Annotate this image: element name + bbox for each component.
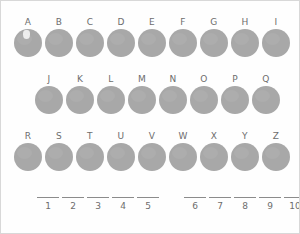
answer-blank-line[interactable] bbox=[259, 197, 281, 198]
alphabet-cell-label: D bbox=[117, 17, 124, 27]
alphabet-dot-icon[interactable] bbox=[76, 143, 104, 171]
alphabet-cell-label: R bbox=[25, 131, 32, 141]
alphabet-cell-f[interactable]: F bbox=[169, 17, 197, 57]
alphabet-cell-e[interactable]: E bbox=[138, 17, 166, 57]
answer-blank-line[interactable] bbox=[112, 197, 134, 198]
alphabet-cell-t[interactable]: T bbox=[76, 131, 104, 171]
answer-blank-line[interactable] bbox=[284, 197, 300, 198]
answer-blanks: 1 2 3 4 5 6 bbox=[1, 197, 300, 212]
answer-blank-line[interactable] bbox=[184, 197, 206, 198]
alphabet-cell-label: V bbox=[149, 131, 155, 141]
alphabet-cell-s[interactable]: S bbox=[45, 131, 73, 171]
alphabet-dot-icon[interactable] bbox=[221, 86, 249, 114]
alphabet-dot-icon[interactable] bbox=[107, 29, 135, 57]
alphabet-dot-icon[interactable] bbox=[200, 143, 228, 171]
alphabet-dot-icon[interactable] bbox=[231, 143, 259, 171]
answer-blank-number: 5 bbox=[145, 201, 151, 212]
alphabet-cell-label: N bbox=[169, 74, 176, 84]
answer-blank-9[interactable]: 9 bbox=[259, 197, 281, 212]
answer-blank-7[interactable]: 7 bbox=[209, 197, 231, 212]
alphabet-cell-label: A bbox=[25, 17, 31, 27]
alphabet-cell-label: Y bbox=[242, 131, 248, 141]
alphabet-dot-icon[interactable] bbox=[128, 86, 156, 114]
alphabet-cell-label: K bbox=[77, 74, 83, 84]
alphabet-cell-l[interactable]: L bbox=[97, 74, 125, 114]
alphabet-cell-j[interactable]: J bbox=[35, 74, 63, 114]
alphabet-dot-icon[interactable] bbox=[262, 143, 290, 171]
alphabet-cell-w[interactable]: W bbox=[169, 131, 197, 171]
alphabet-cell-label: B bbox=[56, 17, 62, 27]
answer-blank-number: 2 bbox=[70, 201, 76, 212]
alphabet-dot-icon[interactable] bbox=[190, 86, 218, 114]
alphabet-dot-icon[interactable] bbox=[200, 29, 228, 57]
answer-blank-number: 3 bbox=[95, 201, 101, 212]
answer-blank-1[interactable]: 1 bbox=[37, 197, 59, 212]
alphabet-cell-m[interactable]: M bbox=[128, 74, 156, 114]
alphabet-cell-label: H bbox=[241, 17, 248, 27]
alphabet-cell-label: J bbox=[48, 74, 51, 84]
alphabet-dot-icon[interactable] bbox=[169, 143, 197, 171]
answer-blank-4[interactable]: 4 bbox=[112, 197, 134, 212]
alphabet-cell-y[interactable]: Y bbox=[231, 131, 259, 171]
alphabet-dot-icon[interactable] bbox=[169, 29, 197, 57]
answer-blank-5[interactable]: 5 bbox=[137, 197, 159, 212]
answer-blank-3[interactable]: 3 bbox=[87, 197, 109, 212]
alphabet-dot-icon[interactable] bbox=[107, 143, 135, 171]
alphabet-cell-z[interactable]: Z bbox=[262, 131, 290, 171]
alphabet-dot-icon[interactable] bbox=[66, 86, 94, 114]
alphabet-cell-label: Z bbox=[273, 131, 279, 141]
answer-blank-6[interactable]: 6 bbox=[184, 197, 206, 212]
alphabet-dot-icon[interactable] bbox=[159, 86, 187, 114]
alphabet-dot-icon[interactable] bbox=[138, 143, 166, 171]
alphabet-cell-c[interactable]: C bbox=[76, 17, 104, 57]
alphabet-dot-icon[interactable] bbox=[138, 29, 166, 57]
alphabet-cell-u[interactable]: U bbox=[107, 131, 135, 171]
alphabet-cell-q[interactable]: Q bbox=[252, 74, 280, 114]
answer-blank-2[interactable]: 2 bbox=[62, 197, 84, 212]
alphabet-cell-n[interactable]: N bbox=[159, 74, 187, 114]
alphabet-cell-label: F bbox=[180, 17, 185, 27]
alphabet-cell-label: L bbox=[108, 74, 113, 84]
answer-blank-10[interactable]: 10 bbox=[284, 197, 300, 212]
alphabet-dot-icon[interactable] bbox=[14, 143, 42, 171]
alphabet-cell-label: E bbox=[149, 17, 155, 27]
answer-group-2: 6 7 8 9 10 bbox=[184, 197, 300, 212]
alphabet-cell-label: G bbox=[210, 17, 217, 27]
alphabet-row-3: R S T U V W X bbox=[1, 119, 300, 171]
alphabet-cell-i[interactable]: I bbox=[262, 17, 290, 57]
alphabet-dot-icon[interactable] bbox=[35, 86, 63, 114]
alphabet-cell-x[interactable]: X bbox=[200, 131, 228, 171]
alphabet-cell-o[interactable]: O bbox=[190, 74, 218, 114]
alphabet-cell-label: C bbox=[87, 17, 94, 27]
alphabet-cell-k[interactable]: K bbox=[66, 74, 94, 114]
alphabet-dot-icon[interactable] bbox=[231, 29, 259, 57]
answer-blank-line[interactable] bbox=[62, 197, 84, 198]
answer-blank-line[interactable] bbox=[37, 197, 59, 198]
answer-blank-line[interactable] bbox=[87, 197, 109, 198]
answer-blank-line[interactable] bbox=[234, 197, 256, 198]
alphabet-cell-b[interactable]: B bbox=[45, 17, 73, 57]
alphabet-dot-icon[interactable] bbox=[45, 29, 73, 57]
answer-blank-number: 1 bbox=[45, 201, 51, 212]
alphabet-dot-icon[interactable] bbox=[76, 29, 104, 57]
alphabet-cell-h[interactable]: H bbox=[231, 17, 259, 57]
alphabet-cell-d[interactable]: D bbox=[107, 17, 135, 57]
alphabet-cell-p[interactable]: P bbox=[221, 74, 249, 114]
alphabet-cell-v[interactable]: V bbox=[138, 131, 166, 171]
alphabet-cell-g[interactable]: G bbox=[200, 17, 228, 57]
alphabet-dot-icon[interactable] bbox=[45, 143, 73, 171]
answer-blank-number: 9 bbox=[267, 201, 273, 212]
alphabet-cell-r[interactable]: R bbox=[14, 131, 42, 171]
worksheet-sheet: A B C D E F G bbox=[0, 0, 300, 234]
answer-blank-8[interactable]: 8 bbox=[234, 197, 256, 212]
alphabet-row-1: A B C D E F G bbox=[1, 5, 300, 57]
alphabet-cell-a[interactable]: A bbox=[14, 17, 42, 57]
answer-blank-line[interactable] bbox=[137, 197, 159, 198]
alphabet-dot-icon[interactable] bbox=[97, 86, 125, 114]
answer-blank-number: 6 bbox=[192, 201, 198, 212]
answer-blank-line[interactable] bbox=[209, 197, 231, 198]
alphabet-dot-icon[interactable] bbox=[14, 29, 42, 57]
alphabet-dot-icon[interactable] bbox=[262, 29, 290, 57]
alphabet-cell-label: W bbox=[178, 131, 187, 141]
alphabet-dot-icon[interactable] bbox=[252, 86, 280, 114]
